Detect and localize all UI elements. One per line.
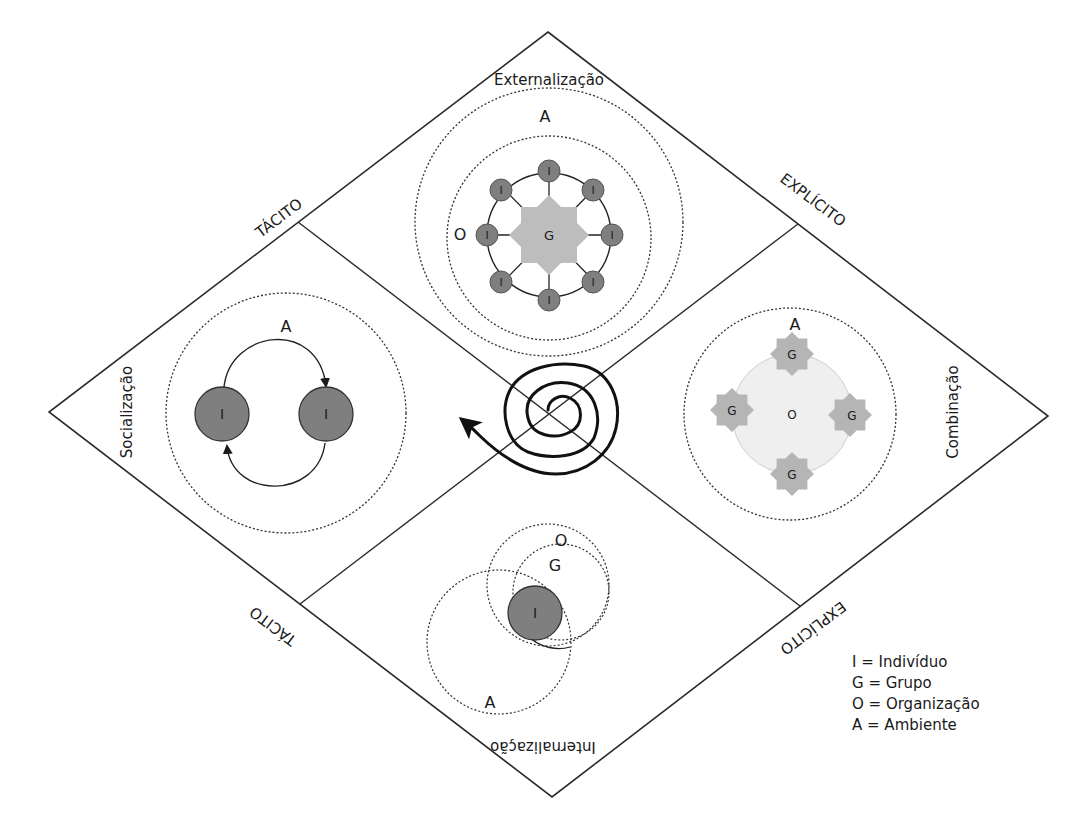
- label-g: G: [549, 556, 561, 575]
- label-g: G: [727, 404, 736, 418]
- legend-item-organizacao: O = Organização: [852, 694, 980, 715]
- quadrant-internalizacao: Internalização I O G A: [427, 524, 609, 756]
- axis-label-tacito-top: TÁCITO: [251, 194, 306, 242]
- node-i: I: [610, 229, 613, 242]
- node-i: I: [591, 276, 594, 289]
- quadrant-combinacao: Combinação A O G G G G: [684, 308, 962, 520]
- axis-label-tacito-bottom: TÁCITO: [245, 603, 300, 651]
- label-a: A: [281, 317, 292, 336]
- label-o: O: [454, 225, 467, 244]
- quadrant-externalizacao: Externalização A O G: [415, 71, 683, 356]
- node-i: I: [499, 276, 502, 289]
- label-o: O: [555, 531, 568, 550]
- node-i: I: [324, 406, 328, 422]
- legend-item-grupo: G = Grupo: [852, 673, 980, 694]
- node-i: I: [547, 165, 550, 178]
- label-a: A: [485, 693, 496, 712]
- transfer-arrow-top: [224, 339, 326, 387]
- axis-label-explicito-bottom: EXPLÍCITO: [777, 597, 850, 659]
- node-i: I: [485, 229, 488, 242]
- transfer-arrow-bottom: [227, 443, 325, 486]
- label-g: G: [847, 409, 856, 423]
- node-i: I: [499, 184, 502, 197]
- label-o: O: [787, 408, 796, 422]
- quadrant-title-socializacao: Socialização: [118, 366, 136, 458]
- quadrant-title-combinacao: Combinação: [944, 365, 962, 458]
- legend-item-ambiente: A = Ambiente: [852, 715, 980, 736]
- label-g: G: [787, 348, 796, 362]
- label-a: A: [790, 315, 801, 334]
- node-i: I: [591, 184, 594, 197]
- label-g: G: [544, 228, 554, 243]
- label-g: G: [787, 468, 796, 482]
- axis-label-explicito-top: EXPLÍCITO: [777, 169, 850, 231]
- legend: I = Indivíduo G = Grupo O = Organização …: [852, 652, 980, 736]
- node-i: I: [547, 294, 550, 307]
- label-a: A: [540, 107, 551, 126]
- quadrant-title-externalizacao: Externalização: [494, 71, 604, 89]
- quadrant-title-internalizacao: Internalização: [490, 738, 596, 756]
- node-i: I: [533, 605, 537, 621]
- node-i: I: [220, 406, 224, 422]
- legend-item-individuo: I = Indivíduo: [852, 652, 980, 673]
